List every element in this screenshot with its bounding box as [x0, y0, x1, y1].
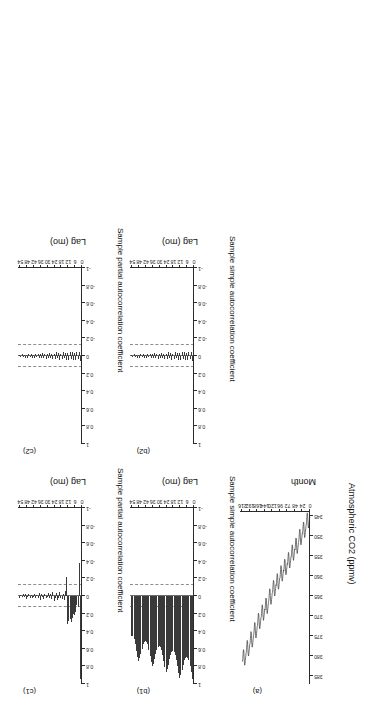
- b2-bar: [166, 354, 167, 356]
- b1-y-tick: [194, 507, 197, 508]
- b1-bar: [134, 596, 135, 639]
- b2-y-tick: [194, 425, 197, 426]
- b1-bar: [167, 596, 168, 669]
- b1-bar: [135, 596, 136, 644]
- c1-bar: [60, 596, 61, 598]
- c1-bar: [57, 596, 58, 600]
- b2-x-ticklabel: 54: [129, 259, 135, 264]
- c1-x-tick: [67, 505, 68, 508]
- c2-bar: [34, 356, 35, 358]
- c2-bar: [75, 356, 76, 360]
- c2-bar: [56, 352, 57, 356]
- b1-x-ticklabel: 48: [136, 499, 142, 504]
- c2-bar: [63, 352, 64, 356]
- b2-y-tick: [194, 443, 197, 444]
- panel-a-y-tick: [310, 655, 313, 656]
- b1-bar: [183, 596, 184, 665]
- b1-bar: [182, 596, 183, 670]
- c1-x-tick: [26, 505, 27, 508]
- panel-a-x-tick: [242, 509, 243, 512]
- c2-x-ticklabel: 48: [24, 259, 30, 264]
- b1-bar: [153, 596, 154, 664]
- c2-y-tick: [82, 390, 85, 391]
- c1-x-ticklabel: 42: [31, 499, 37, 504]
- b1-bar: [138, 596, 139, 661]
- c1-bar: [67, 596, 68, 624]
- b2-confidence-bound: [130, 344, 194, 345]
- b2-y-tick: [194, 355, 197, 356]
- c2-bar: [42, 353, 43, 356]
- c2-bar: [55, 356, 56, 359]
- b2-bar: [159, 354, 160, 356]
- panel-a-x-axis: [240, 511, 310, 512]
- c2-bar: [28, 354, 29, 356]
- b2-bar: [190, 356, 191, 359]
- c2-x-ticklabel: 0: [81, 259, 84, 264]
- b1-bar: [148, 596, 149, 650]
- c2-bar: [73, 356, 74, 360]
- b1-bar: [166, 596, 167, 672]
- figure-canvas: (a) Atmospheric CO2 (ppmv) Month 0244872…: [0, 0, 374, 716]
- c2-x-ticklabel: 42: [31, 259, 37, 264]
- c1-y-tick: [82, 542, 85, 543]
- b1-y-axis: [193, 508, 194, 684]
- panel-a-x-ticklabel: 216: [238, 503, 247, 508]
- b2-y-ticklabel: 0.6: [198, 406, 216, 411]
- panel-a-ylabel: Atmospheric CO2 (ppmv): [347, 483, 356, 585]
- figure-rotation-wrapper: (a) Atmospheric CO2 (ppmv) Month 0244872…: [0, 0, 374, 716]
- c2-confidence-bound: [18, 366, 82, 367]
- c2-x-tick: [67, 265, 68, 268]
- b1-bar: [152, 596, 153, 666]
- c1-bar: [44, 594, 45, 596]
- b2-x-ticklabel: 42: [143, 259, 149, 264]
- c1-x-ticklabel: 54: [17, 499, 23, 504]
- b2-bar: [136, 355, 137, 356]
- b2-bar: [135, 356, 136, 357]
- c2-y-tick: [82, 408, 85, 409]
- panel-b1-acf-raw: (b1) Sample simple autocorrelation coeff…: [124, 468, 234, 698]
- b1-bar: [164, 596, 165, 667]
- panel-b1-ylabel: Sample simple autocorrelation coefficien…: [228, 476, 236, 622]
- c1-y-tick: [82, 613, 85, 614]
- b1-y-tick: [194, 577, 197, 578]
- b2-bar: [187, 356, 188, 360]
- c1-x-tick: [74, 505, 75, 508]
- b2-bar: [180, 356, 181, 360]
- b1-bar: [150, 596, 151, 656]
- c1-x-ticklabel: 48: [24, 499, 30, 504]
- c2-bar: [23, 356, 24, 357]
- c1-x-tick: [40, 505, 41, 508]
- panel-a-y-ticklabel: 365: [314, 593, 332, 598]
- b1-y-tick: [194, 613, 197, 614]
- c2-x-tick: [60, 265, 61, 268]
- c2-x-axis: [18, 267, 82, 268]
- c2-bar: [38, 354, 39, 356]
- c1-bar: [64, 596, 65, 600]
- panel-a-y-ticklabel: 380: [314, 653, 332, 658]
- c1-x-tick: [60, 505, 61, 508]
- b2-x-ticklabel: 48: [136, 259, 142, 264]
- b1-bar: [139, 596, 140, 658]
- b2-bar: [139, 356, 140, 358]
- panel-c2-xlabel: Lag (mo): [50, 237, 86, 246]
- b1-x-ticklabel: 6: [186, 499, 189, 504]
- c2-bar: [66, 356, 67, 360]
- b1-x-ticklabel: 18: [171, 499, 177, 504]
- b1-bar: [146, 596, 147, 642]
- panel-a-x-tick: [264, 509, 265, 512]
- c2-y-tick: [82, 320, 85, 321]
- c2-x-tick: [47, 265, 48, 268]
- panel-a-y-ticklabel: 355: [314, 553, 332, 558]
- panel-a-tag: (a): [253, 687, 262, 696]
- c1-y-ticklabel: 1: [86, 681, 104, 686]
- b1-bar: [180, 596, 181, 675]
- b1-bar: [136, 596, 137, 651]
- b1-bar: [188, 596, 189, 660]
- c2-y-ticklabel: -0.8: [86, 283, 104, 288]
- b1-y-ticklabel: -0.4: [198, 558, 216, 563]
- c1-bar: [66, 577, 67, 596]
- panel-a-x-tick: [279, 509, 280, 512]
- b2-y-ticklabel: 0.4: [198, 389, 216, 394]
- b2-bar: [182, 352, 183, 356]
- b2-x-tick: [159, 265, 160, 268]
